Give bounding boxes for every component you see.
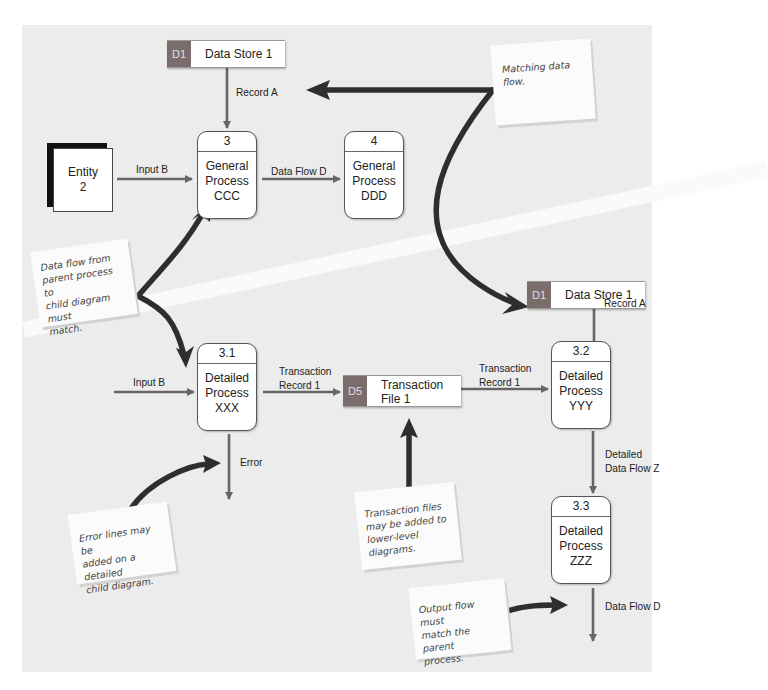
process-id: 3.2	[552, 342, 610, 362]
record-a-label-child: Record A	[604, 297, 646, 311]
record-a-label-top: Record A	[236, 86, 278, 100]
data-store-d1-top[interactable]: D1 Data Store 1	[167, 40, 285, 68]
process-3-1[interactable]: 3.1 Detailed Process XXX	[197, 343, 257, 431]
data-flow-d-label-top: Data Flow D	[271, 165, 327, 179]
data-flow-d-label-child: Data Flow D	[605, 600, 661, 614]
process-4[interactable]: 4 General Process DDD	[344, 131, 404, 219]
data-store-id: D5	[343, 376, 367, 406]
entity-2[interactable]: Entity 2	[53, 148, 113, 212]
data-store-d5[interactable]: D5 Transaction File 1	[343, 375, 461, 407]
matching-arrowhead-curve	[502, 292, 529, 314]
note-error-lines: Error lines may be added on a detailed c…	[68, 501, 177, 584]
transaction-record-label-left: Transaction Record 1	[279, 365, 331, 393]
output-callout-arrow	[505, 605, 555, 612]
process-name: General Process DDD	[345, 152, 403, 204]
error-label: Error	[240, 456, 262, 470]
data-store-id: D1	[527, 282, 551, 308]
note-matching-data-flow: Matching data flow.	[490, 39, 595, 126]
input-b-label-child: Input B	[133, 376, 165, 390]
process-3-3[interactable]: 3.3 Detailed Process ZZZ	[551, 496, 611, 584]
process-name: Detailed Process YYY	[552, 362, 610, 414]
note-output-flow: Output flow must match the parent proces…	[408, 578, 511, 660]
process-id: 4	[345, 132, 403, 152]
transaction-record-label-right: Transaction Record 1	[479, 362, 531, 390]
error-callout-arrow	[130, 464, 208, 510]
detailed-data-flow-z-label: Detailed Data Flow Z	[605, 448, 660, 476]
process-name: General Process CCC	[198, 152, 256, 204]
note-transaction-files: Transaction files may be added to lower-…	[354, 482, 462, 570]
note-parent-child-match: Data flow from parent process to child d…	[30, 239, 138, 328]
process-id: 3	[198, 132, 256, 152]
data-store-id: D1	[167, 41, 191, 67]
process-id: 3.3	[552, 497, 610, 517]
parent-child-callout-arrow-up	[138, 213, 203, 296]
data-store-name: Transaction File 1	[367, 376, 461, 406]
process-3[interactable]: 3 General Process CCC	[197, 131, 257, 219]
process-id: 3.1	[198, 344, 256, 364]
process-name: Detailed Process XXX	[198, 364, 256, 416]
data-store-name: Data Store 1	[191, 41, 285, 67]
process-3-2[interactable]: 3.2 Detailed Process YYY	[551, 341, 611, 429]
process-name: Detailed Process ZZZ	[552, 517, 610, 569]
parent-child-callout-arrow-down	[138, 296, 184, 355]
input-b-label-top: Input B	[136, 163, 168, 177]
